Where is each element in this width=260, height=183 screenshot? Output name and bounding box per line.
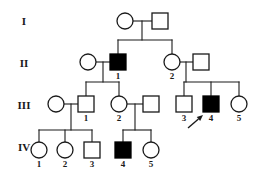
individual-iii-1-square-unaffected — [78, 96, 94, 112]
id-label-iv-4: 4 — [121, 159, 126, 169]
individual-iv-4-square-affected — [115, 142, 131, 158]
id-label-iv-2: 2 — [63, 159, 68, 169]
id-label-ii-1: 1 — [116, 71, 121, 81]
individual-iv-2-circle-unaffected — [57, 142, 73, 158]
id-label-iii-3: 3 — [182, 113, 187, 123]
individual-i-1-circle-unaffected — [117, 13, 133, 29]
individual-symbols — [31, 13, 247, 158]
id-label-iii-1: 1 — [84, 113, 89, 123]
individual-iii-4-square-affected — [203, 96, 219, 112]
generation-label-4: IV — [18, 141, 30, 153]
proband-arrow-shaft — [188, 119, 198, 128]
individual-iii-2m-square-unaffected — [143, 96, 159, 112]
id-label-ii-2: 2 — [170, 71, 175, 81]
individual-iii-2-circle-unaffected — [111, 96, 127, 112]
proband-arrow-group — [188, 115, 203, 128]
id-label-iii-2: 2 — [117, 113, 122, 123]
id-label-iv-5: 5 — [149, 159, 154, 169]
pedigree-chart: 121234512345 IIIIIIIV — [0, 0, 260, 183]
individual-iv-5-circle-unaffected — [143, 142, 159, 158]
id-label-iii-5: 5 — [237, 113, 242, 123]
pedigree-canvas: 121234512345 IIIIIIIV — [0, 0, 260, 183]
generation-label-3: III — [18, 99, 31, 111]
individual-iii-1m-circle-unaffected — [48, 96, 64, 112]
individual-ii-2m-square-unaffected — [193, 54, 209, 70]
individual-ii-1-square-affected — [110, 54, 126, 70]
generation-labels: IIIIIIIV — [18, 15, 31, 153]
individual-ii-2-circle-unaffected — [164, 54, 180, 70]
individual-iv-3-square-unaffected — [84, 142, 100, 158]
lineage-lines — [39, 21, 239, 142]
individual-i-2-square-unaffected — [152, 13, 168, 29]
individual-iii-5-circle-unaffected — [231, 96, 247, 112]
individual-iv-1-circle-unaffected — [31, 142, 47, 158]
id-label-iv-1: 1 — [37, 159, 42, 169]
individual-iii-3-square-unaffected — [176, 96, 192, 112]
individual-ii-1m-circle-unaffected — [80, 54, 96, 70]
id-label-iv-3: 3 — [90, 159, 95, 169]
id-label-iii-4: 4 — [209, 113, 214, 123]
generation-label-1: I — [22, 15, 26, 27]
generation-label-2: II — [20, 57, 29, 69]
